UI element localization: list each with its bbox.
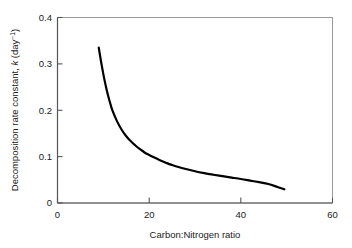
y-axis-title-prefix: Decomposition rate constant, xyxy=(9,66,20,192)
x-tick-label-60: 60 xyxy=(327,209,338,220)
chart-figure: 0 0.1 0.2 0.3 0.4 0 20 40 60 Carbon:Nitr… xyxy=(0,0,352,248)
y-axis-ticks xyxy=(58,18,63,204)
plot-frame xyxy=(58,18,333,204)
x-tick-labels: 0 20 40 60 xyxy=(55,209,338,220)
y-axis-title-units-close: ) xyxy=(9,29,20,32)
y-axis-title: Decomposition rate constant, k (day−1) xyxy=(9,29,20,191)
x-tick-label-20: 20 xyxy=(144,209,155,220)
x-tick-label-0: 0 xyxy=(55,209,60,220)
x-axis-ticks xyxy=(58,198,333,204)
y-axis-title-units-open: (day xyxy=(9,39,20,60)
x-tick-label-40: 40 xyxy=(236,209,247,220)
y-tick-label-0: 0 xyxy=(47,197,52,208)
decomposition-rate-chart: 0 0.1 0.2 0.3 0.4 0 20 40 60 Carbon:Nitr… xyxy=(0,0,352,248)
y-tick-label-4: 0.4 xyxy=(39,12,52,23)
y-tick-label-3: 0.3 xyxy=(39,58,52,69)
x-axis-title: Carbon:Nitrogen ratio xyxy=(150,229,241,240)
y-tick-label-2: 0.2 xyxy=(39,105,52,116)
y-tick-label-1: 0.1 xyxy=(39,151,52,162)
y-tick-labels: 0 0.1 0.2 0.3 0.4 xyxy=(39,12,52,209)
series-line-decomposition-rate xyxy=(99,48,285,190)
